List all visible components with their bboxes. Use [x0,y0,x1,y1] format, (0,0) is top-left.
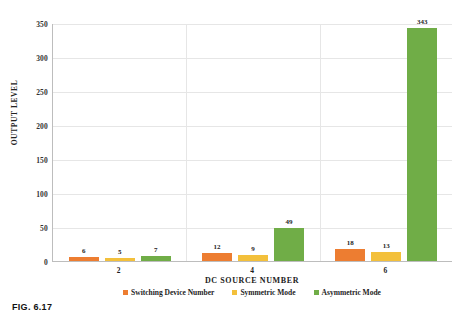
bar-wrapper: 5 [105,24,135,261]
bar[interactable] [335,249,365,261]
bar-value-label: 9 [251,245,255,253]
figure-root: 050100150200250300350 OUTPUT LEVEL 65712… [0,0,470,318]
legend-label: Symmetric Mode [240,288,295,297]
bar-wrapper: 12 [202,24,232,261]
bar-value-label: 12 [213,243,220,251]
legend-label: Switching Device Number [131,288,214,297]
bar-group: 1813343 [320,24,453,261]
legend-label: Asymmetric Mode [322,288,381,297]
bar-group: 12949 [186,24,319,261]
bar[interactable] [407,28,437,261]
bar[interactable] [238,255,268,261]
bar-value-label: 49 [285,218,292,226]
legend-swatch-icon [123,290,128,295]
y-tick-label: 50 [4,224,48,233]
plot-area: 657129491813343 [52,24,452,262]
x-tick-label: 4 [250,266,254,275]
x-tick-label: 2 [117,266,121,275]
bar-chart: 050100150200250300350 OUTPUT LEVEL 65712… [0,0,470,282]
bar[interactable] [274,228,304,261]
y-axis-ticks: 050100150200250300350 [0,24,48,262]
bar-wrapper: 7 [141,24,171,261]
bar-value-label: 6 [82,247,86,255]
x-tick-label: 6 [383,266,387,275]
bar-wrapper: 6 [69,24,99,261]
bar-wrapper: 343 [407,24,437,261]
legend-item[interactable]: Symmetric Mode [232,288,295,297]
y-tick-label: 350 [4,20,48,29]
figure-caption: FIG. 6.17 [12,302,52,312]
legend-item[interactable]: Asymmetric Mode [314,288,381,297]
bar[interactable] [202,253,232,261]
bar-group: 657 [53,24,186,261]
bar-value-label: 343 [417,18,428,26]
legend-swatch-icon [314,290,319,295]
y-axis-title: OUTPUT LEVEL [10,53,19,173]
y-tick-label: 0 [4,258,48,267]
bar[interactable] [371,252,401,261]
bar[interactable] [69,257,99,261]
chart-legend: Switching Device NumberSymmetric ModeAsy… [52,288,452,297]
bar-value-label: 13 [383,242,390,250]
y-tick-label: 100 [4,190,48,199]
bar-wrapper: 9 [238,24,268,261]
x-axis-title: DC SOURCE NUMBER [52,276,452,285]
bar-value-label: 18 [347,239,354,247]
bar-value-label: 7 [154,246,158,254]
bar[interactable] [105,258,135,261]
bar[interactable] [141,256,171,261]
bar-wrapper: 13 [371,24,401,261]
legend-item[interactable]: Switching Device Number [123,288,214,297]
legend-swatch-icon [232,290,237,295]
bar-value-label: 5 [118,248,122,256]
bar-wrapper: 49 [274,24,304,261]
bar-wrapper: 18 [335,24,365,261]
